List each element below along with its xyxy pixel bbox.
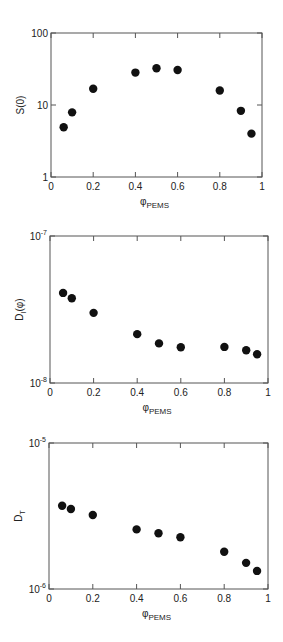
figure: S(0) φPEMS 00.20.40.60.81110100φPEMSS(0)…	[0, 0, 283, 642]
data-point	[89, 511, 97, 519]
data-point	[68, 294, 76, 302]
x-tick-label: 0.4	[130, 387, 144, 398]
data-point	[67, 505, 75, 513]
x-tick-label: 1	[259, 181, 265, 192]
data-point	[154, 529, 162, 537]
x-tick-label: 0.6	[173, 593, 187, 604]
x-tick-label: 0.8	[213, 181, 227, 192]
data-point	[89, 85, 97, 93]
y-tick-label: 10	[37, 100, 49, 111]
chart-s0: S(0) φPEMS 00.20.40.60.81110100φPEMSS(0)	[15, 28, 265, 210]
x-tick-label: 0.8	[217, 387, 231, 398]
y-tick-label: 10-6	[29, 582, 46, 595]
x-tick-label: 0.6	[171, 181, 185, 192]
x-tick-label: 1	[265, 387, 271, 398]
data-point	[68, 108, 76, 116]
data-point	[133, 330, 141, 338]
data-point	[89, 309, 97, 317]
x-tick-label: 0.4	[130, 593, 144, 604]
x-axis-label: φPEMS	[140, 196, 169, 210]
y-axis-label: DI(φ)	[14, 298, 27, 320]
y-tick-label: 10-5	[29, 436, 46, 449]
x-tick-label: 0.6	[174, 387, 188, 398]
y-tick-label: 10-8	[30, 376, 47, 389]
y-axis-label: DT	[13, 510, 26, 522]
data-point	[253, 567, 261, 575]
y-tick-label: 10-7	[30, 229, 47, 242]
figure-canvas: S(0) φPEMS 00.20.40.60.81110100φPEMSS(0)…	[0, 0, 283, 642]
data-point	[58, 502, 66, 510]
x-tick-label: 1	[265, 593, 271, 604]
x-axis-label: φPEMS	[142, 402, 171, 416]
data-point	[176, 533, 184, 541]
data-point	[59, 289, 67, 297]
x-tick-label: 0.8	[217, 593, 231, 604]
x-tick-label: 0	[47, 387, 53, 398]
plot-frame	[49, 443, 268, 589]
data-point	[242, 346, 250, 354]
data-point	[237, 107, 245, 115]
data-point	[132, 525, 140, 533]
data-point	[220, 548, 228, 556]
chart-diffusion-t: DT φPEMS 00.20.40.60.8110-610-5φPEMSDT	[13, 436, 271, 622]
x-tick-label: 0	[46, 593, 52, 604]
chart-diffusion-i: DI(φ) φPEMS 00.20.40.60.8110-810-7φPEMSD…	[14, 229, 271, 416]
x-tick-label: 0.2	[87, 387, 101, 398]
data-point	[173, 66, 181, 74]
data-point	[242, 559, 250, 567]
data-point	[220, 343, 228, 351]
data-point	[216, 86, 224, 94]
data-point	[155, 339, 163, 347]
y-tick-label: 1	[42, 172, 48, 183]
x-tick-label: 0.4	[128, 181, 142, 192]
data-point	[59, 123, 67, 131]
x-tick-label: 0.2	[86, 593, 100, 604]
data-point	[152, 64, 160, 72]
data-point	[253, 350, 261, 358]
y-axis-label: S(0)	[15, 96, 26, 115]
y-tick-label: 100	[31, 28, 48, 39]
x-tick-label: 0.2	[86, 181, 100, 192]
data-point	[247, 129, 255, 137]
data-point	[177, 343, 185, 351]
plot-frame	[50, 236, 268, 383]
data-point	[131, 68, 139, 76]
x-axis-label: φPEMS	[142, 608, 171, 622]
plot-frame	[51, 33, 262, 177]
x-tick-label: 0	[48, 181, 54, 192]
